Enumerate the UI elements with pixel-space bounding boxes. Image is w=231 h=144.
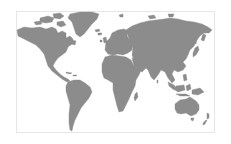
region-greenland [68,12,102,37]
region-australia [175,97,199,121]
region-south-america [66,80,92,131]
region-asia [126,14,212,96]
region-north-america [17,13,77,82]
world-map [0,0,231,144]
region-new-zealand [203,113,209,125]
